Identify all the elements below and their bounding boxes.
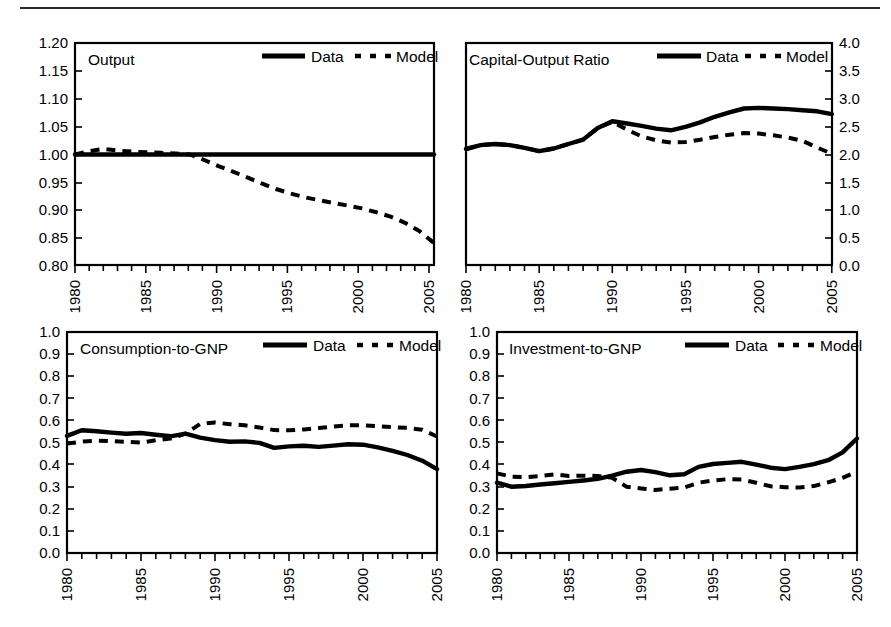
y-tick-label: 3.5 [839, 62, 860, 79]
y-tick-label: 0.6 [469, 412, 490, 429]
panel-output: 1.20 1.15 1.10 1.05 1.00 0.95 0.90 0.85 … [0, 20, 446, 320]
x-tick-label: 2000 [354, 568, 371, 601]
x-tick-label: 2000 [750, 280, 767, 313]
x-ticks-consumption-to-gnp [67, 553, 437, 561]
series-line-data [497, 439, 857, 487]
y-tick-label: 0.6 [39, 412, 60, 429]
x-tick-label: 2005 [823, 280, 840, 313]
x-tick-label: 1980 [58, 568, 75, 601]
x-axis-labels-output: 1980 1985 1990 1995 2000 2005 [66, 280, 437, 313]
legend-output: Data Model [262, 48, 438, 65]
y-tick-label: 1.0 [469, 323, 490, 340]
y-tick-label: 1.0 [839, 201, 860, 218]
y-tick-label: 0.0 [839, 257, 860, 274]
y-tick-label: 2.5 [839, 118, 860, 135]
x-tick-label: 1995 [280, 568, 297, 601]
y-tick-label: 0.4 [39, 456, 60, 473]
y-tick-label: 0.90 [39, 201, 68, 218]
y-tick-label: 0.7 [39, 390, 60, 407]
x-axis-labels-investment-to-gnp: 1980 1985 1990 1995 2000 2005 [488, 568, 865, 601]
chart-output: 1.20 1.15 1.10 1.05 1.00 0.95 0.90 0.85 … [0, 20, 446, 320]
plot-frame-capital-output-ratio [466, 43, 832, 265]
panel-consumption-to-gnp: 1.0 0.9 0.8 0.7 0.6 0.5 0.4 0.3 0.2 0.1 … [0, 320, 446, 627]
y-tick-label: 0.0 [39, 544, 60, 561]
x-tick-label: 1980 [457, 280, 474, 313]
y-tick-label: 0.9 [39, 345, 60, 362]
series-line-data [67, 430, 437, 469]
legend-data-label: Data [313, 337, 346, 354]
y-tick-label: 1.00 [39, 146, 68, 163]
panel-investment-to-gnp: 1.0 0.9 0.8 0.7 0.6 0.5 0.4 0.3 0.2 0.1 … [445, 320, 891, 627]
x-tick-label: 1985 [530, 280, 547, 313]
y-tick-label: 0.0 [469, 544, 490, 561]
legend-model-label: Model [396, 48, 438, 65]
figure-root: 1.20 1.15 1.10 1.05 1.00 0.95 0.90 0.85 … [0, 0, 891, 627]
x-tick-label: 1990 [206, 568, 223, 601]
y-tick-label: 4.0 [839, 34, 860, 51]
y-axis-labels-consumption-to-gnp: 1.0 0.9 0.8 0.7 0.6 0.5 0.4 0.3 0.2 0.1 … [39, 323, 60, 561]
y-tick-label: 0.95 [39, 174, 68, 191]
y-tick-label: 1.0 [39, 323, 60, 340]
x-tick-label: 1995 [278, 280, 295, 313]
chart-investment-to-gnp: 1.0 0.9 0.8 0.7 0.6 0.5 0.4 0.3 0.2 0.1 … [445, 320, 891, 627]
x-tick-label: 1990 [632, 568, 649, 601]
y-tick-label: 0.5 [39, 434, 60, 451]
x-ticks-output [75, 265, 429, 273]
y-tick-label: 0.3 [469, 478, 490, 495]
legend-model-label: Model [399, 337, 441, 354]
y-tick-label: 1.10 [39, 90, 68, 107]
x-axis-labels-consumption-to-gnp: 1980 1985 1990 1995 2000 2005 [58, 568, 445, 601]
legend-capital-output-ratio: Data Model [657, 48, 828, 65]
legend-data-label: Data [735, 337, 768, 354]
y-tick-label: 0.1 [469, 522, 490, 539]
legend-model-label: Model [786, 48, 828, 65]
y-tick-label: 1.15 [39, 62, 68, 79]
y-tick-label: 0.2 [39, 500, 60, 517]
y-axis-labels-output: 1.20 1.15 1.10 1.05 1.00 0.95 0.90 0.85 … [39, 34, 68, 274]
panel-title: Output [88, 51, 135, 68]
x-tick-label: 1985 [137, 280, 154, 313]
y-axis-labels-capital-output-ratio: 4.0 3.5 3.0 2.5 2.0 1.5 1.0 0.5 0.0 [839, 34, 860, 274]
x-tick-label: 2005 [420, 280, 437, 313]
y-tick-label: 0.1 [39, 522, 60, 539]
panel-capital-output-ratio: 4.0 3.5 3.0 2.5 2.0 1.5 1.0 0.5 0.0 [445, 20, 891, 320]
chart-consumption-to-gnp: 1.0 0.9 0.8 0.7 0.6 0.5 0.4 0.3 0.2 0.1 … [0, 320, 446, 627]
x-tick-label: 1990 [208, 280, 225, 313]
chart-capital-output-ratio: 4.0 3.5 3.0 2.5 2.0 1.5 1.0 0.5 0.0 [445, 20, 891, 320]
x-tick-label: 1985 [560, 568, 577, 601]
y-tick-label: 0.9 [469, 345, 490, 362]
y-tick-label: 0.5 [839, 229, 860, 246]
y-tick-label: 0.8 [39, 367, 60, 384]
x-tick-label: 1985 [132, 568, 149, 601]
y-tick-label: 3.0 [839, 90, 860, 107]
y-tick-label: 0.85 [39, 229, 68, 246]
y-tick-label: 0.4 [469, 456, 490, 473]
series-line-model [75, 149, 434, 243]
y-tick-label: 0.2 [469, 500, 490, 517]
x-tick-label: 2000 [349, 280, 366, 313]
panel-title: Investment-to-GNP [509, 340, 642, 357]
x-tick-label: 1995 [677, 280, 694, 313]
y-axis-labels-investment-to-gnp: 1.0 0.9 0.8 0.7 0.6 0.5 0.4 0.3 0.2 0.1 … [469, 323, 490, 561]
x-tick-label: 1995 [704, 568, 721, 601]
y-tick-label: 0.7 [469, 390, 490, 407]
series-line-data [466, 108, 832, 151]
legend-model-label: Model [820, 337, 862, 354]
x-tick-label: 2000 [776, 568, 793, 601]
x-tick-label: 1990 [603, 280, 620, 313]
x-tick-label: 1980 [66, 280, 83, 313]
panel-title: Capital-Output Ratio [469, 51, 609, 68]
legend-data-label: Data [706, 48, 739, 65]
x-tick-label: 2005 [428, 568, 445, 601]
x-ticks-investment-to-gnp [497, 553, 857, 561]
x-ticks-capital-output-ratio [466, 265, 832, 273]
y-tick-label: 1.5 [839, 174, 860, 191]
legend-consumption-to-gnp: Data Model [263, 337, 441, 354]
x-tick-label: 1980 [488, 568, 505, 601]
x-tick-label: 2005 [848, 568, 865, 601]
y-tick-label: 0.5 [469, 434, 490, 451]
y-tick-label: 1.20 [39, 34, 68, 51]
y-tick-label: 2.0 [839, 146, 860, 163]
x-axis-labels-capital-output-ratio: 1980 1985 1990 1995 2000 2005 [457, 280, 840, 313]
y-tick-label: 1.05 [39, 118, 68, 135]
